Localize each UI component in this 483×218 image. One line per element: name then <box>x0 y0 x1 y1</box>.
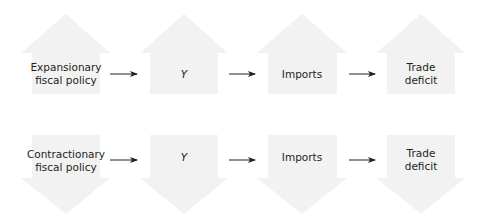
label-line: Imports <box>282 68 322 81</box>
row-contractionary <box>21 135 465 214</box>
label-line: Y <box>181 68 187 81</box>
label-line: fiscal policy <box>30 74 101 87</box>
label-line: Y <box>181 151 187 164</box>
node-label-trade-deficit: Trade deficit <box>405 61 438 87</box>
label-line: Contractionary <box>27 148 105 161</box>
label-line: fiscal policy <box>27 161 105 174</box>
label-line: Trade <box>405 147 438 160</box>
down-arrow-block-imports <box>257 135 347 214</box>
label-line: deficit <box>405 74 438 87</box>
node-label-y: Y <box>181 151 187 164</box>
node-label-expansionary-fiscal-policy: Expansionary fiscal policy <box>30 61 101 87</box>
label-line: Trade <box>405 61 438 74</box>
diagram-canvas <box>0 0 483 218</box>
up-arrow-block-imports <box>257 14 347 94</box>
down-arrow-block-y <box>140 135 228 214</box>
label-line: deficit <box>405 160 438 173</box>
label-line: Expansionary <box>30 61 101 74</box>
down-arrow-block-fiscal <box>21 135 110 214</box>
node-label-imports: Imports <box>282 68 322 81</box>
label-line: Imports <box>282 151 322 164</box>
node-label-imports: Imports <box>282 151 322 164</box>
up-arrow-block-y <box>140 14 228 94</box>
node-label-y: Y <box>181 68 187 81</box>
node-label-trade-deficit: Trade deficit <box>405 147 438 173</box>
node-label-contractionary-fiscal-policy: Contractionary fiscal policy <box>27 148 105 174</box>
